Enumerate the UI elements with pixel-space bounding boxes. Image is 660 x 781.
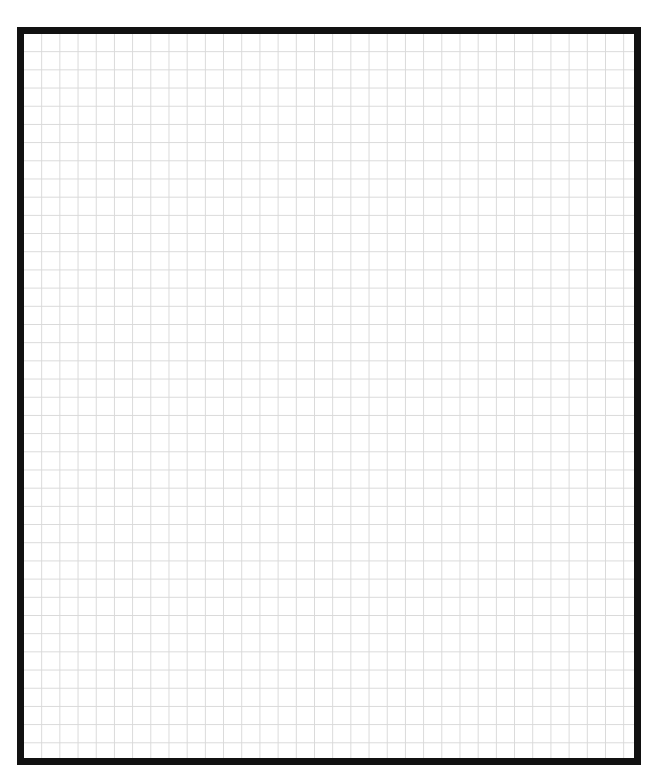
grid-paper-canvas	[17, 27, 641, 765]
